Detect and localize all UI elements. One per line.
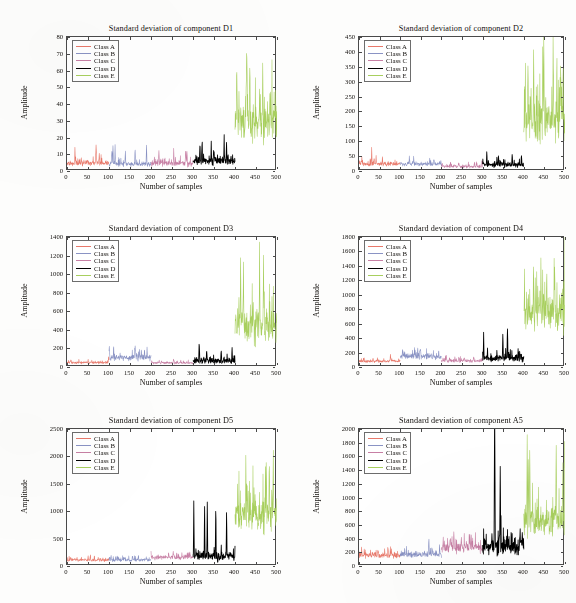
y-axis-tick-label: 2500 [50, 425, 63, 432]
y-axis-tick-label: 1600 [342, 452, 355, 459]
y-axis-tick-label: 200 [345, 348, 355, 355]
y-axis-tick-mark [273, 566, 276, 567]
x-axis-tick-mark [380, 167, 381, 170]
y-axis-tick-mark [359, 566, 362, 567]
y-axis-tick-mark [359, 126, 362, 127]
x-axis-tick-label: 150 [124, 173, 134, 180]
x-axis-tick-label: 150 [415, 173, 425, 180]
y-axis-tick-mark [67, 348, 70, 349]
x-axis-tick-mark [441, 37, 442, 40]
x-axis-tick-mark [214, 363, 215, 366]
x-axis-tick-label: 150 [124, 568, 134, 575]
y-axis-tick-label: 2000 [50, 452, 63, 459]
y-axis-tick-mark [67, 293, 70, 294]
y-axis-tick-mark [359, 52, 362, 53]
y-axis-tick-mark [561, 52, 564, 53]
x-axis-tick-label: 350 [497, 369, 507, 376]
y-axis-tick-mark [561, 552, 564, 553]
x-axis-tick-mark [88, 363, 89, 366]
y-axis-tick-mark [67, 138, 70, 139]
chart-title: Standard deviation of component D4 [358, 224, 564, 233]
y-axis-tick-mark [359, 156, 362, 157]
x-axis-tick-label: 500 [271, 173, 281, 180]
y-axis-tick-mark [67, 311, 70, 312]
x-axis-tick-mark [359, 37, 360, 40]
legend-item: Class E [368, 272, 407, 279]
y-axis-tick-label: 10 [56, 150, 63, 157]
y-axis-tick-mark [561, 280, 564, 281]
y-axis-tick-mark [359, 456, 362, 457]
x-axis-tick-mark [235, 562, 236, 565]
legend-item-label: Class D [386, 65, 407, 72]
legend-item: Class D [76, 65, 115, 72]
y-axis-tick-label: 70 [56, 49, 63, 56]
y-axis-tick-mark [359, 280, 362, 281]
y-axis-tick-mark [273, 121, 276, 122]
y-axis-tick-mark [359, 511, 362, 512]
legend-item-label: Class E [386, 464, 407, 471]
y-axis-tick-mark [359, 443, 362, 444]
y-axis-tick-mark [561, 266, 564, 267]
x-axis-tick-mark [483, 37, 484, 40]
chart-panel-d4: Standard deviation of component D4020040… [288, 200, 576, 400]
x-axis-tick-mark [193, 363, 194, 366]
chart-panel-d1: Standard deviation of component D1010203… [0, 0, 288, 200]
y-axis-tick-label: 600 [53, 307, 63, 314]
y-axis-tick-mark [359, 470, 362, 471]
y-axis-tick-mark [273, 293, 276, 294]
y-axis-tick-mark [67, 367, 70, 368]
x-axis-tick-mark [235, 429, 236, 432]
y-axis-tick-mark [561, 566, 564, 567]
y-axis-tick-mark [561, 97, 564, 98]
y-axis-label: Amplitude [312, 36, 321, 170]
y-axis-tick-label: 1200 [50, 251, 63, 258]
legend-item: Class A [368, 435, 407, 442]
y-axis-tick-mark [561, 456, 564, 457]
legend-item: Class D [368, 265, 407, 272]
y-axis-tick-mark [359, 309, 362, 310]
y-axis-tick-mark [561, 511, 564, 512]
legend-color-swatch [76, 53, 91, 54]
legend-item: Class B [368, 250, 407, 257]
x-axis-tick-label: 300 [187, 369, 197, 376]
y-axis-tick-mark [359, 484, 362, 485]
y-axis-tick-mark [561, 443, 564, 444]
x-axis-tick-label: 200 [145, 369, 155, 376]
x-axis-tick-label: 450 [538, 369, 548, 376]
y-axis-tick-mark [67, 539, 70, 540]
x-axis-tick-mark [109, 167, 110, 170]
x-axis-tick-mark [130, 429, 131, 432]
legend-item: Class C [368, 257, 407, 264]
x-axis-tick-label: 200 [145, 568, 155, 575]
legend-item: Class E [76, 464, 115, 471]
x-axis-tick-label: 50 [84, 369, 91, 376]
y-axis-tick-label: 800 [345, 305, 355, 312]
x-axis-tick-label: 0 [356, 369, 359, 376]
y-axis-tick-label: 350 [345, 62, 355, 69]
x-axis-tick-mark [462, 562, 463, 565]
x-axis-tick-mark [193, 237, 194, 240]
legend-item: Class B [76, 50, 115, 57]
x-axis-tick-label: 300 [477, 173, 487, 180]
y-axis-tick-label: 2000 [342, 425, 355, 432]
x-axis-tick-label: 250 [456, 568, 466, 575]
legend-item: Class B [76, 250, 115, 257]
legend-item-label: Class A [94, 243, 115, 250]
x-axis-tick-label: 500 [559, 369, 569, 376]
legend-item-label: Class B [94, 50, 115, 57]
x-axis-tick-label: 0 [356, 568, 359, 575]
x-axis-tick-mark [214, 562, 215, 565]
x-axis-tick-label: 350 [208, 369, 218, 376]
x-axis-tick-mark [109, 363, 110, 366]
chart-legend: Class AClass BClass CClass DClass E [364, 240, 411, 282]
legend-item: Class A [76, 43, 115, 50]
x-axis-tick-mark [151, 167, 152, 170]
y-axis-tick-mark [273, 104, 276, 105]
legend-color-swatch [368, 452, 383, 453]
legend-color-swatch [368, 467, 383, 468]
x-axis-tick-mark [277, 562, 278, 565]
legend-color-swatch [76, 46, 91, 47]
x-axis-tick-mark [359, 429, 360, 432]
legend-color-swatch [76, 68, 91, 69]
chart-panel-a5: Standard deviation of component A5020040… [288, 400, 576, 603]
